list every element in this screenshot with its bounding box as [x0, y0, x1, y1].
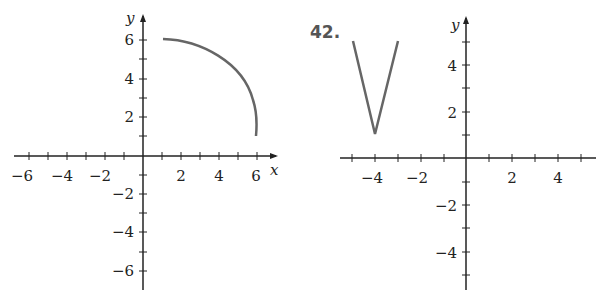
right-y-tick-label: −4	[435, 244, 457, 262]
left-x-tick-label: 6	[251, 167, 261, 185]
left-y-tick-label: −6	[112, 262, 134, 280]
right-graph: 42.	[310, 16, 596, 290]
left-y-tick-label: 4	[124, 70, 134, 88]
left-x-tick-label: 4	[214, 167, 224, 185]
left-y-tick-label: 2	[124, 108, 134, 126]
left-x-tick-label: −6	[11, 167, 33, 185]
left-x-tick-label: 2	[176, 167, 186, 185]
left-x-tick-label: −2	[89, 167, 111, 185]
right-y-tick-label: 4	[447, 57, 457, 75]
left-y-tick-label: −4	[112, 223, 134, 241]
figure-canvas: −6 −4 −2 2 4 6 6 4 2 −2 −4 −6 x y 42.	[0, 0, 596, 292]
problem-number: 42.	[310, 22, 340, 42]
left-y-tick-label: 6	[124, 31, 134, 49]
right-y-tick-label: 2	[447, 104, 457, 122]
right-y-tick-label: −2	[435, 197, 457, 215]
right-x-tick-label: 2	[507, 169, 517, 187]
left-y-tick-label: −2	[112, 185, 134, 203]
left-x-axis-label: x	[270, 161, 279, 179]
left-arc-curve	[163, 39, 257, 136]
v-shape-curve	[353, 41, 398, 134]
left-y-axis-label: y	[125, 9, 135, 27]
right-x-tick-label: 4	[553, 169, 563, 187]
right-x-tick-label: −4	[361, 169, 383, 187]
left-x-tick-label: −4	[51, 167, 73, 185]
right-x-tick-label: −2	[406, 169, 428, 187]
left-graph: −6 −4 −2 2 4 6 6 4 2 −2 −4 −6 x y	[11, 9, 279, 290]
right-y-axis-label: y	[450, 16, 460, 34]
